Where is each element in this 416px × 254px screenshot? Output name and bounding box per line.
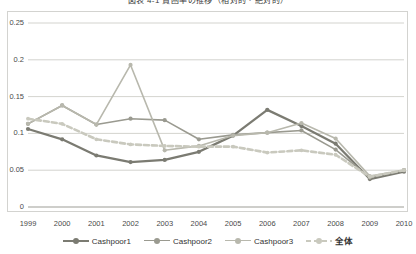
legend-label: 全体 (335, 237, 353, 246)
gridlines (28, 23, 404, 207)
data-point (368, 175, 372, 179)
data-point (163, 144, 167, 148)
x-axis-tick-label: 1999 (11, 219, 45, 228)
chart-canvas (0, 0, 416, 254)
chart-legend: Cashpoor1Cashpoor2Cashpoor3全体 (0, 234, 416, 248)
data-point (163, 158, 167, 162)
data-point (60, 103, 64, 107)
legend-label: Cashpoor2 (173, 237, 212, 246)
data-point (94, 122, 98, 126)
data-point (163, 148, 167, 152)
legend-label: Cashpoor3 (254, 237, 293, 246)
data-point (197, 145, 201, 149)
data-point (163, 118, 167, 122)
data-point (94, 153, 98, 157)
data-point (299, 128, 303, 132)
x-axis-tick-label: 2004 (182, 219, 216, 228)
y-axis-tick-label: 0.05 (0, 166, 24, 174)
legend-line-icon (306, 237, 332, 246)
data-point (94, 137, 98, 141)
data-point (265, 108, 269, 112)
series-layer (26, 63, 406, 181)
y-axis-tick-label: 0.1 (0, 129, 24, 137)
data-point (197, 137, 201, 141)
data-point (265, 131, 269, 135)
data-point (60, 122, 64, 126)
data-point (265, 151, 269, 155)
legend-item-4[interactable]: 全体 (306, 237, 353, 246)
data-point (231, 145, 235, 149)
legend-label: Cashpoor1 (92, 237, 131, 246)
x-axis-tick-label: 2002 (114, 219, 148, 228)
data-point (299, 121, 303, 125)
legend-line-icon (144, 237, 170, 246)
series-4 (26, 117, 406, 179)
y-axis-tick-label: 0.25 (0, 19, 24, 27)
data-point (128, 63, 132, 67)
data-point (128, 117, 132, 121)
legend-line-icon (225, 237, 251, 246)
data-point (402, 168, 406, 172)
data-point (26, 127, 30, 131)
data-point (60, 137, 64, 141)
data-point (300, 148, 304, 152)
y-axis-tick-label: 0 (0, 203, 24, 211)
x-axis-tick-label: 2000 (45, 219, 79, 228)
x-axis-tick-label: 2006 (250, 219, 284, 228)
y-axis-tick-label: 0.2 (0, 56, 24, 64)
legend-item-2[interactable]: Cashpoor2 (144, 237, 212, 246)
x-axis-tick-label: 2008 (319, 219, 353, 228)
legend-line-icon (63, 237, 89, 246)
x-axis-tick-label: 2009 (353, 219, 387, 228)
data-point (26, 122, 30, 126)
data-point (334, 142, 338, 146)
x-axis-tick-label: 2007 (284, 219, 318, 228)
y-axis-tick-label: 0.15 (0, 93, 24, 101)
data-point (128, 160, 132, 164)
data-point (197, 150, 201, 154)
x-axis-tick-label: 2003 (148, 219, 182, 228)
data-point (129, 143, 133, 147)
x-axis-tick-label: 2010 (387, 219, 416, 228)
data-point (26, 117, 30, 121)
data-point (231, 134, 235, 138)
chart-screenshot: 図表 4-1 貧困率の推移（相対的・絶対的） 00.050.10.150.20.… (0, 0, 416, 254)
x-axis-tick-label: 2005 (216, 219, 250, 228)
legend-item-1[interactable]: Cashpoor1 (63, 237, 131, 246)
series-line (28, 119, 404, 177)
x-axis-tick-label: 2001 (79, 219, 113, 228)
data-point (334, 147, 338, 151)
data-point (334, 136, 338, 140)
legend-item-3[interactable]: Cashpoor3 (225, 237, 293, 246)
data-point (334, 153, 338, 157)
series-line (28, 110, 404, 179)
